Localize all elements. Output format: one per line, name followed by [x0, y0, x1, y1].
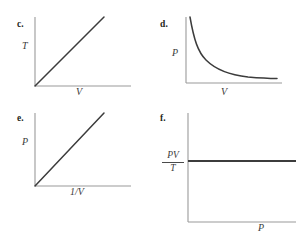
panel-e: e. P 1/V — [0, 110, 148, 245]
panel-d: d. P V — [148, 0, 296, 110]
panel-d-data-curve — [190, 17, 277, 79]
panel-f-plot — [148, 110, 296, 245]
figure-panel-grid: c. T V d. P V e. P 1/V f. — [0, 0, 296, 245]
panel-e-data-line — [35, 113, 104, 186]
panel-c-data-line — [35, 17, 104, 86]
panel-c-plot — [0, 0, 148, 110]
panel-f: f. PV T P — [148, 110, 296, 245]
panel-d-plot — [148, 0, 296, 110]
panel-e-plot — [0, 110, 148, 245]
panel-c: c. T V — [0, 0, 148, 110]
